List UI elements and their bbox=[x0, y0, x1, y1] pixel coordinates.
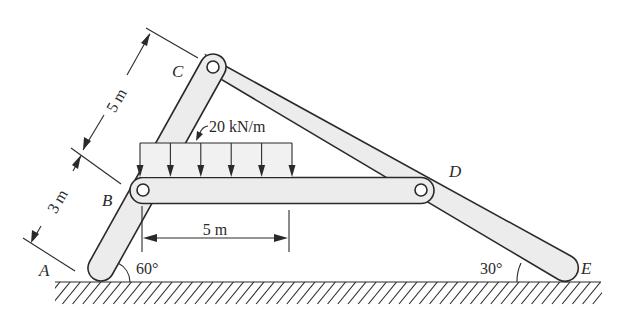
hatch-line bbox=[501, 282, 519, 304]
hatch-line bbox=[93, 282, 111, 304]
hatch-line bbox=[409, 282, 427, 304]
arrowhead-c bbox=[141, 33, 150, 46]
pin-d bbox=[415, 184, 427, 196]
hatch-line bbox=[185, 282, 203, 304]
hatch-line bbox=[399, 282, 417, 304]
arrowhead-b-lower bbox=[72, 155, 81, 169]
hatch-line bbox=[389, 282, 407, 304]
angle-e-label: 30° bbox=[480, 260, 502, 277]
hatch-line bbox=[175, 282, 193, 304]
hatch-line bbox=[542, 282, 560, 304]
point-label-d: D bbox=[448, 162, 462, 181]
hatch-line bbox=[511, 282, 529, 304]
hatch-line bbox=[552, 282, 570, 304]
hatch-line bbox=[277, 282, 295, 304]
ground-hatching bbox=[42, 282, 611, 304]
point-label-b: B bbox=[102, 191, 113, 210]
hatch-line bbox=[593, 282, 611, 304]
hatch-line bbox=[144, 282, 162, 304]
hatch-line bbox=[440, 282, 458, 304]
hatch-line bbox=[62, 282, 80, 304]
distributed-load: 20 kN/m bbox=[137, 118, 296, 177]
hatch-line bbox=[521, 282, 539, 304]
hatch-line bbox=[42, 282, 60, 304]
point-label-e: E bbox=[580, 259, 592, 278]
hatch-line bbox=[246, 282, 264, 304]
hatch-line bbox=[154, 282, 172, 304]
hatch-line bbox=[103, 282, 121, 304]
frame-diagram: 20 kN/m 5 m 3 m 5 m 60° 30° A B C D E bbox=[0, 0, 623, 325]
load-label: 20 kN/m bbox=[209, 118, 266, 135]
angle-a-label: 60° bbox=[136, 260, 158, 277]
hatch-line bbox=[470, 282, 488, 304]
hatch-line bbox=[419, 282, 437, 304]
ground bbox=[42, 282, 611, 304]
hatch-line bbox=[73, 282, 91, 304]
hatch-line bbox=[572, 282, 590, 304]
dim-load-label: 5 m bbox=[203, 221, 228, 238]
hatch-line bbox=[226, 282, 244, 304]
arrowhead-load-right bbox=[274, 234, 288, 242]
hatch-line bbox=[195, 282, 213, 304]
arrowhead-load-left bbox=[143, 234, 157, 242]
hatch-line bbox=[450, 282, 468, 304]
pin-c bbox=[207, 61, 219, 73]
load-leader-line bbox=[200, 126, 208, 133]
hatch-line bbox=[266, 282, 284, 304]
angle-arc-a bbox=[118, 263, 130, 282]
dim-bc-label: 5 m bbox=[103, 85, 130, 115]
hatch-line bbox=[430, 282, 448, 304]
hatch-line bbox=[205, 282, 223, 304]
hatch-line bbox=[287, 282, 305, 304]
hatch-line bbox=[481, 282, 499, 304]
load-area bbox=[140, 143, 292, 177]
hatch-line bbox=[236, 282, 254, 304]
hatch-line bbox=[328, 282, 346, 304]
hatch-line bbox=[297, 282, 315, 304]
hatch-line bbox=[307, 282, 325, 304]
hatch-line bbox=[134, 282, 152, 304]
load-leader-arrowhead bbox=[196, 131, 203, 141]
extension-line-c bbox=[146, 28, 198, 58]
hatch-line bbox=[83, 282, 101, 304]
dim-ab-label: 3 m bbox=[44, 186, 71, 216]
hatch-line bbox=[583, 282, 601, 304]
hatch-line bbox=[317, 282, 335, 304]
dimension-load-length: 5 m bbox=[142, 206, 289, 252]
hatch-line bbox=[368, 282, 386, 304]
hatch-line bbox=[532, 282, 550, 304]
hatch-line bbox=[215, 282, 233, 304]
hatch-line bbox=[338, 282, 356, 304]
hatch-line bbox=[348, 282, 366, 304]
hatch-line bbox=[562, 282, 580, 304]
angle-arc-e bbox=[517, 263, 521, 282]
hatch-line bbox=[491, 282, 509, 304]
hatch-line bbox=[124, 282, 142, 304]
hatch-line bbox=[256, 282, 274, 304]
hatch-line bbox=[113, 282, 131, 304]
point-label-a: A bbox=[38, 261, 50, 280]
hatch-line bbox=[358, 282, 376, 304]
hatch-line bbox=[460, 282, 478, 304]
hatch-line bbox=[52, 282, 70, 304]
member-bd bbox=[130, 178, 434, 204]
hatch-line bbox=[379, 282, 397, 304]
hatch-line bbox=[164, 282, 182, 304]
point-label-c: C bbox=[172, 62, 184, 81]
pin-b bbox=[137, 184, 149, 196]
